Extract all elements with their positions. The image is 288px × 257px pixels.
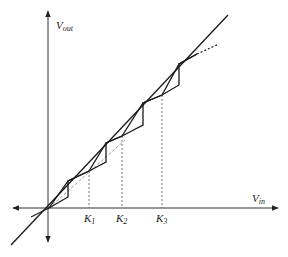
- y-axis-label: Vout: [56, 20, 73, 33]
- approximation-dashed-line: [49, 140, 125, 208]
- continuation-dotted-line: [197, 44, 219, 54]
- tick-label-k1: K1: [84, 213, 95, 226]
- staircase-branch-upper: [49, 54, 197, 208]
- tick-label-k2: K2: [116, 213, 127, 226]
- staircase-branch-lower: [49, 54, 197, 208]
- x-axis-label: Vin: [252, 193, 265, 206]
- transfer-characteristic-diagram: [0, 0, 288, 257]
- chord-line: [31, 208, 49, 217]
- tick-label-k3: K3: [156, 213, 167, 226]
